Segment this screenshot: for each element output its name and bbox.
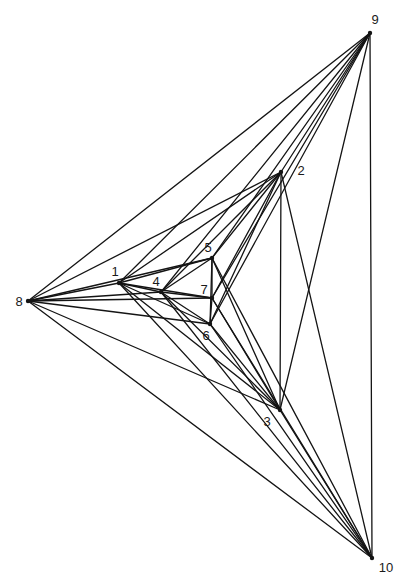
- node-5-label: 5: [204, 240, 211, 255]
- edge-1-9: [119, 33, 370, 283]
- node-10-label: 10: [379, 560, 393, 575]
- edge-2-7: [212, 172, 281, 298]
- node-3-dot: [278, 408, 282, 412]
- edge-2-3: [280, 172, 281, 410]
- edge-7-9: [212, 33, 370, 298]
- node-4-dot: [159, 290, 163, 294]
- edge-5-9: [212, 33, 370, 258]
- node-8-dot: [26, 299, 30, 303]
- graph-canvas: 12345678910: [0, 0, 405, 586]
- edge-1-10: [119, 283, 372, 558]
- edge-6-9: [210, 33, 370, 324]
- node-4-label: 4: [152, 274, 159, 289]
- edge-9-10: [370, 33, 372, 558]
- node-6-label: 6: [202, 328, 209, 343]
- node-2-dot: [279, 170, 283, 174]
- node-9-dot: [368, 31, 372, 35]
- node-10-dot: [370, 556, 374, 560]
- graph-figure: 12345678910: [0, 0, 405, 586]
- edge-7-10: [212, 298, 372, 558]
- edge-6-10: [210, 324, 372, 558]
- edge-5-10: [212, 258, 372, 558]
- node-6-dot: [208, 322, 212, 326]
- edge-2-9: [281, 33, 370, 172]
- node-7-dot: [210, 296, 214, 300]
- node-5-dot: [210, 256, 214, 260]
- node-3-label: 3: [263, 414, 270, 429]
- node-1-label: 1: [111, 264, 118, 279]
- node-8-label: 8: [15, 294, 22, 309]
- node-9-label: 9: [371, 12, 378, 27]
- node-2-label: 2: [297, 163, 304, 178]
- node-1-dot: [117, 281, 121, 285]
- node-7-label: 7: [200, 282, 207, 297]
